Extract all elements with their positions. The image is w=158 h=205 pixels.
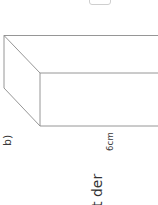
dimension-label: 6cm: [105, 132, 115, 151]
exercise-label: b): [1, 135, 14, 146]
cuboid-figure: [0, 0, 158, 205]
textbook-page: b) 6cm t der: [0, 0, 158, 205]
cuboid-edge-diagonal-top: [4, 36, 40, 74]
cuboid-edge-diagonal-bottom: [4, 88, 40, 126]
body-text-fragment: t der: [89, 174, 105, 205]
